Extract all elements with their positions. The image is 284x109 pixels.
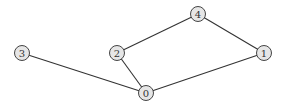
node-1: 1 [257, 46, 272, 61]
node-2: 2 [110, 46, 125, 61]
graph-canvas: 01234 [0, 0, 284, 109]
edge-layer [22, 14, 264, 93]
edge-4-1 [198, 14, 264, 53]
node-label: 3 [19, 48, 25, 59]
node-label: 4 [195, 9, 201, 20]
edge-1-0 [146, 53, 264, 93]
node-label: 1 [261, 48, 267, 59]
node-layer: 01234 [15, 7, 272, 101]
edge-3-0 [22, 53, 146, 93]
node-label: 2 [114, 48, 120, 59]
node-0: 0 [139, 86, 154, 101]
node-label: 0 [143, 88, 149, 99]
edge-2-4 [117, 14, 198, 53]
node-3: 3 [15, 46, 30, 61]
node-4: 4 [191, 7, 206, 22]
